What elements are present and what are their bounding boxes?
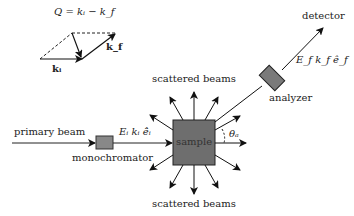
analyzer-label: analyzer (269, 92, 312, 103)
detector-label: detector (302, 10, 345, 21)
theta-label: θₐ (229, 128, 239, 139)
scattered-beams-bottom-label: scattered beams (152, 198, 236, 209)
monochromator-label: monochromator (72, 152, 153, 163)
analyzer-box (259, 65, 284, 90)
final-params-label: E_f k_f ê_f (296, 54, 348, 65)
ki-label: kᵢ (52, 63, 61, 74)
monochromator-box (96, 136, 113, 149)
primary-beam-label: primary beam (14, 126, 85, 137)
diagram: Q = kᵢ − k_f kᵢ k_f primary beam monochr… (0, 0, 354, 216)
equation-label: Q = kᵢ − k_f (54, 6, 115, 17)
scattered-beams-top-label: scattered beams (152, 73, 236, 84)
incident-params-label: Eᵢ kᵢ ê̂ᵢ (119, 126, 151, 137)
sample-label: sample (176, 136, 212, 147)
vector-triangle (40, 33, 116, 59)
diagram-graphics (0, 0, 354, 216)
kf-label: k_f (106, 41, 122, 52)
